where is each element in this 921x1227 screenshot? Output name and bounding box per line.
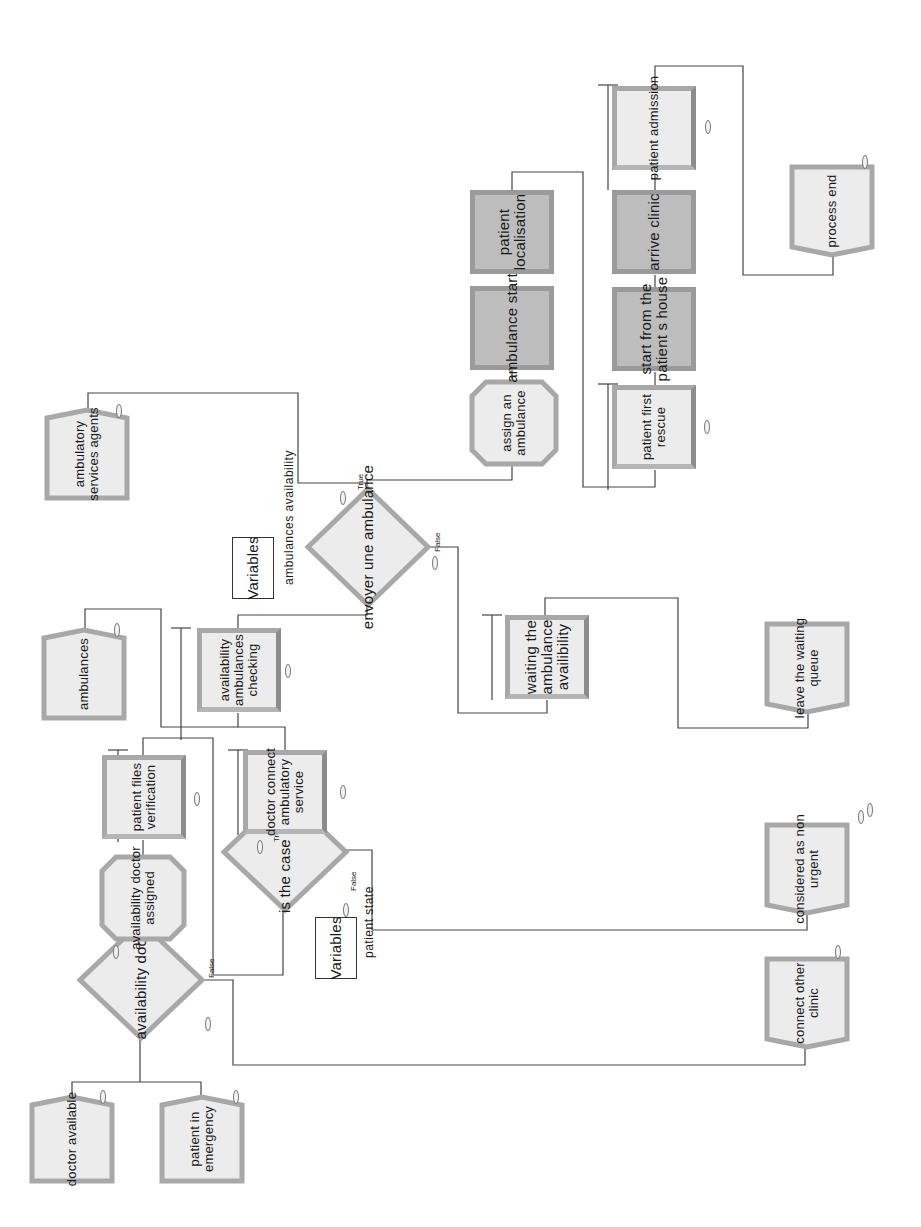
variables-label: Variables <box>246 536 260 599</box>
false-label: False <box>349 871 358 891</box>
counter-badge <box>704 420 710 434</box>
node-label: connect other clinic <box>793 962 821 1043</box>
counter-badge <box>867 803 873 817</box>
variables-box-ambulances[interactable]: Variables <box>232 537 274 599</box>
connector <box>367 465 512 487</box>
create-ambulances[interactable]: ambulances <box>42 628 126 720</box>
variables-box-patient[interactable]: Variables <box>315 917 357 979</box>
dispose-considered-as-non-urgent[interactable]: considered as non urgent <box>765 823 849 915</box>
process-ambulance-start[interactable]: ambulance start <box>470 286 554 370</box>
dispose-process-end[interactable]: process end <box>790 165 874 257</box>
process-availability-doctor-assigned[interactable]: availability doctor assigned <box>100 855 186 941</box>
counter-badge <box>858 810 864 824</box>
counter-badge <box>340 785 346 799</box>
decision-envoyer-une-ambulance[interactable]: envoyer une ambulance <box>304 485 432 609</box>
node-label: patient first rescue <box>640 394 668 460</box>
variables-label: Variables <box>329 916 343 979</box>
counter-badge <box>285 664 291 678</box>
counter-badge <box>116 404 122 418</box>
node-label: doctor connect ambulatory service <box>264 748 306 836</box>
create-patient-in-emergency[interactable]: patient in emergency <box>160 1095 244 1183</box>
node-label: ambulances <box>77 638 91 710</box>
connector <box>345 850 807 930</box>
node-label: ambulatory services agents <box>73 407 101 500</box>
counter-badge <box>113 945 119 959</box>
node-label: patient admission <box>647 76 661 181</box>
connector <box>205 980 805 1065</box>
node-label: assign an ambulance <box>500 390 528 455</box>
connector <box>72 1082 201 1095</box>
node-label: arrive clinic <box>646 193 662 271</box>
counter-badge <box>100 1090 106 1104</box>
node-label: waiting the ambulance availibility <box>523 619 571 694</box>
counter-badge <box>194 792 200 806</box>
node-label: leave the waiting queue <box>793 618 821 718</box>
node-label: availability ambulances checking <box>218 634 260 706</box>
counter-badge <box>835 945 841 959</box>
dispose-connect-other-clinic[interactable]: connect other clinic <box>765 957 849 1049</box>
node-label: start from the patient s house <box>638 277 670 382</box>
node-label: patient in emergency <box>188 1106 216 1172</box>
variable-name: ambulances availability <box>282 450 296 585</box>
node-label: process end <box>825 174 839 247</box>
counter-badge <box>233 1090 239 1104</box>
counter-badge <box>705 120 711 134</box>
flowchart-canvas: doctor available patient in emergency am… <box>0 0 921 1227</box>
process-patient-files-verification[interactable]: patient files verification <box>102 755 186 839</box>
node-label: patient files verification <box>130 763 158 831</box>
node-label: availability doctor assigned <box>129 846 157 950</box>
counter-badge <box>114 623 120 637</box>
counter-badge <box>257 840 263 854</box>
create-ambulatory-services-agents[interactable]: ambulatory services agents <box>45 408 129 500</box>
counter-badge <box>862 155 868 169</box>
node-label: patient localisation <box>496 194 528 271</box>
process-assign-an-ambulance[interactable]: assign an ambulance <box>470 380 558 466</box>
counter-badge <box>340 491 346 505</box>
variable-name: patient state <box>362 886 376 958</box>
counter-badge <box>343 903 349 917</box>
counter-badge <box>205 1017 211 1031</box>
create-doctor-available[interactable]: doctor available <box>30 1095 114 1183</box>
node-label: doctor available <box>65 1092 79 1186</box>
process-arrive-clinic[interactable]: arrive clinic <box>612 190 696 274</box>
dispose-leave-the-waiting-queue[interactable]: leave the waiting queue <box>765 622 849 714</box>
node-label: ambulance start <box>504 273 520 383</box>
process-patient-first-rescue[interactable]: patient first rescue <box>612 385 696 469</box>
process-patient-admission[interactable]: patient admission <box>612 86 696 170</box>
process-waiting-the-ambulance-availability[interactable]: waiting the ambulance availibility <box>505 615 589 699</box>
connector <box>238 713 285 750</box>
false-label: False <box>433 532 442 552</box>
counter-badge <box>432 556 438 570</box>
process-availability-ambulances-checking[interactable]: availability ambulances checking <box>197 628 281 712</box>
process-start-from-the-patients-house[interactable]: start from the patient s house <box>612 287 696 371</box>
connector <box>238 607 367 628</box>
process-doctor-connect-ambulatory-service[interactable]: doctor connect ambulatory service <box>243 750 327 834</box>
node-label: considered as non urgent <box>793 814 821 924</box>
true-label: True <box>356 474 365 490</box>
connector <box>88 393 367 483</box>
process-patient-localisation[interactable]: patient localisation <box>470 190 554 274</box>
false-label: False <box>207 958 216 978</box>
